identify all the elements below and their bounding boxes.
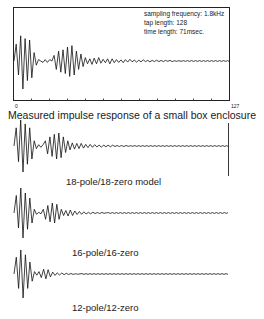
plot1-waveform: [14, 36, 229, 89]
plot3-waveform: [14, 188, 228, 238]
time-length-label: time length: 71msec.: [144, 27, 224, 36]
plot2-caption: 18-pole/18-zero model: [66, 176, 161, 187]
impulse-response-figure: [0, 0, 264, 319]
plot1-info-box: sampling frequency: 1.8kHz tap length: 1…: [144, 9, 224, 36]
plot2-waveform: [14, 120, 228, 172]
plot1-caption: Measured impulse response of a small box…: [0, 109, 264, 121]
sampling-frequency-label: sampling frequency: 1.8kHz: [144, 9, 224, 18]
plot4-caption: 12-pole/12-zero: [72, 302, 139, 313]
plot3-caption: 16-pole/16-zero: [72, 247, 139, 258]
tap-length-label: tap length: 128: [144, 18, 224, 27]
